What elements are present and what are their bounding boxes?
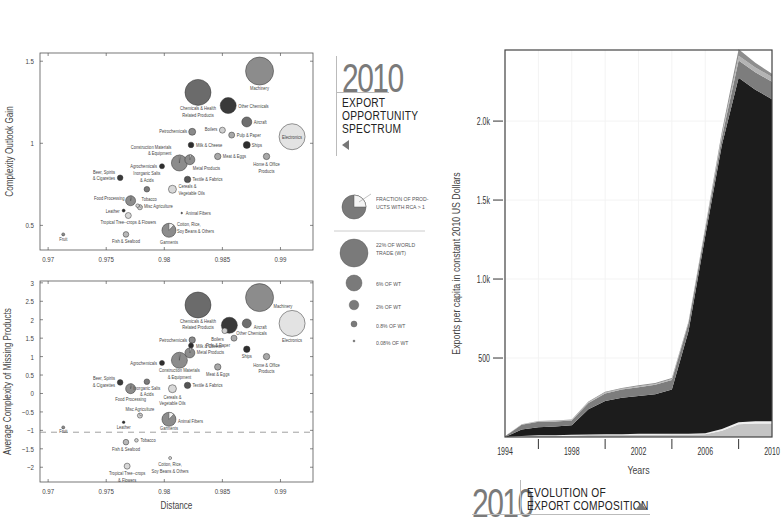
bubble-marker[interactable] [184, 382, 190, 388]
bubble-marker[interactable] [219, 127, 225, 133]
point-label: Machinery [250, 86, 270, 91]
legend-text: TRADE (WT) [376, 249, 415, 257]
bubble-marker[interactable] [188, 142, 194, 148]
size-legend-icon [340, 239, 368, 267]
bubble-marker[interactable] [124, 463, 130, 469]
bubble-marker[interactable] [246, 57, 274, 85]
bubble-marker[interactable] [117, 175, 123, 181]
bubble-marker[interactable] [168, 185, 176, 193]
legend-text: 0.8% OF WT [376, 322, 405, 330]
point-label: Meat & Eggs [223, 154, 247, 159]
point-label: Textile & Fabrics [193, 177, 224, 182]
y-tick-label: 1.0k [477, 274, 491, 286]
x-tick-label: 0.97 [42, 487, 54, 495]
legend-size-22: 22% OF WORLD TRADE (WT) [376, 241, 415, 257]
y-axis-label: Average Complexity of Missing Products [2, 308, 13, 455]
bubble-marker[interactable] [244, 346, 250, 352]
bubble-marker[interactable] [243, 141, 250, 148]
y-tick-label: 1.5 [25, 58, 34, 66]
y-tick-label: −1.5 [22, 445, 34, 453]
bubble-marker[interactable] [125, 213, 131, 219]
point-label: Milk & Cheese [196, 343, 223, 348]
bubble-marker[interactable] [135, 439, 139, 443]
bubble-marker[interactable] [263, 353, 269, 359]
point-label: & Cigarettes [93, 383, 116, 388]
point-label: Chemicals & Health [180, 106, 216, 111]
bubble-marker[interactable] [263, 153, 269, 159]
point-label: Cotton, Rice, [177, 222, 201, 227]
triangle-left-icon[interactable] [341, 139, 351, 151]
triangle-up-icon[interactable] [634, 501, 648, 511]
bubble-marker[interactable] [123, 232, 129, 238]
bubble-marker[interactable] [159, 164, 164, 169]
bubble-marker[interactable] [279, 310, 305, 336]
bubble-marker[interactable] [181, 212, 183, 214]
bubble-marker[interactable] [62, 233, 65, 236]
bubble-marker[interactable] [185, 292, 211, 318]
point-label: & Acids [140, 177, 154, 182]
point-label: Inorganic Salts [133, 385, 161, 390]
point-label: Other Chemicals [236, 331, 267, 336]
point-label: Inorganic Salts [133, 171, 161, 176]
size-legend-icon [351, 321, 357, 327]
point-label: Other Chemicals [238, 103, 269, 108]
x-tick-label: 0.985 [215, 487, 231, 495]
bubble-marker[interactable] [189, 337, 195, 343]
bubble-marker[interactable] [123, 439, 129, 445]
bubble-marker[interactable] [122, 421, 125, 424]
bubble-marker[interactable] [185, 79, 211, 105]
y-tick-label: 1 [31, 353, 35, 361]
bubble-marker[interactable] [117, 380, 123, 386]
bubble-marker[interactable] [189, 343, 194, 348]
bubble-marker[interactable] [122, 209, 125, 212]
bubble-marker[interactable] [242, 319, 251, 328]
bubble-marker[interactable] [159, 360, 164, 365]
point-label: Fruit [59, 237, 68, 242]
point-label: Vegetable Oils [159, 401, 186, 406]
y-tick-label: 0.5 [25, 222, 34, 230]
average-complexity-missing-products-chart: 0.970.9750.980.9850.99−2−1.5−1−0.500.511… [0, 262, 330, 526]
legend-text: 6% OF WT [376, 280, 401, 288]
bubble-marker[interactable] [229, 132, 235, 138]
x-tick-label: 2010 [764, 446, 780, 458]
point-label: Fish & Seafood [112, 447, 140, 452]
point-label: Beer, Spirits [93, 169, 116, 174]
point-label: Beer, Spirits [93, 376, 116, 381]
bubble-marker[interactable] [189, 128, 196, 135]
title-underline [472, 514, 650, 515]
legend-text: FRACTION OF PROD- [376, 195, 428, 203]
bubble-marker[interactable] [184, 176, 190, 182]
title-divider [337, 92, 389, 93]
point-label: Garments [160, 426, 179, 431]
bubble-marker[interactable] [220, 98, 236, 114]
point-label: Leather [106, 208, 120, 213]
y-tick-label: −1 [27, 427, 34, 435]
title-divider-vertical [520, 480, 521, 514]
bubble-marker[interactable] [136, 204, 140, 208]
point-label: Tobacco [140, 438, 156, 443]
bubble-marker[interactable] [168, 385, 176, 393]
point-label: Products [258, 369, 275, 374]
bubble-marker[interactable] [215, 364, 221, 370]
bubble-marker[interactable] [215, 153, 221, 159]
legend-size-2: 2% OF WT [376, 303, 401, 311]
bubble-marker[interactable] [144, 186, 150, 192]
bubble-marker[interactable] [222, 328, 228, 334]
point-label: Petrochemicals [159, 338, 188, 343]
point-label: Boilers [205, 127, 218, 132]
x-tick-label: 1994 [497, 446, 513, 458]
y-tick-label: −2 [27, 464, 34, 472]
bubble-marker[interactable] [144, 379, 150, 385]
bubble-marker[interactable] [169, 457, 172, 460]
x-axis-label: Years [627, 464, 649, 476]
point-label: Metal Products [193, 165, 221, 170]
bubble-marker[interactable] [242, 117, 252, 127]
point-label: Tobacco [142, 196, 158, 201]
point-label: Home & Office [253, 362, 280, 367]
y-tick-label: 500 [478, 353, 490, 365]
point-label: & Cigarettes [93, 176, 116, 181]
export-composition-area-chart: 5001.0k1.5k2.0k19941998200220062010Years… [440, 0, 781, 480]
y-axis-label: Complexity Outlook Gain [4, 106, 15, 197]
bubble-marker[interactable] [246, 284, 274, 312]
point-label: Food Processing [115, 396, 146, 401]
